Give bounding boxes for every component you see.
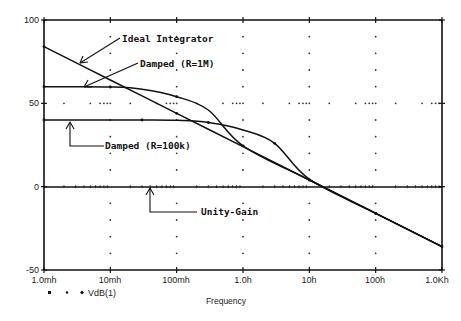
curves	[43, 45, 444, 248]
annotation-damped-100k: Damped (R=100k)	[66, 122, 191, 151]
y-tick-50: 50	[29, 98, 39, 108]
legend-label: VdB(1)	[88, 288, 116, 298]
y-tick-minus50: -50	[26, 265, 39, 275]
anno-damped-1m-text: Damped (R=1M)	[140, 58, 214, 69]
x-tick-10h: 10h	[301, 275, 316, 285]
y-tick-100: 100	[24, 15, 39, 25]
x-axis-labels: 1.0mh 10mh 100mh 1.0h 10h 100h 1.0Kh	[31, 275, 448, 285]
annotation-damped-1m: Damped (R=1M)	[84, 58, 214, 87]
x-tick-10mh: 10mh	[99, 275, 122, 285]
annotation-unity-gain: Unity-Gain	[146, 188, 258, 217]
y-axis-labels: 100 50 0 -50	[24, 15, 39, 275]
anno-ideal-integrator-text: Ideal Integrator	[122, 33, 214, 44]
x-tick-100mh: 100mh	[162, 275, 190, 285]
legend-diamond-marker	[80, 291, 84, 295]
curve-1	[44, 87, 442, 247]
x-tick-1h: 1.0h	[234, 275, 252, 285]
anno-damped-100k-text: Damped (R=100k)	[105, 140, 191, 151]
legend: VdB(1)	[48, 288, 116, 298]
legend-dot-marker	[66, 291, 68, 293]
x-tick-1Kh: 1.0Kh	[425, 275, 449, 285]
x-tick-100h: 100h	[365, 275, 385, 285]
curve-2	[44, 120, 442, 247]
bode-plot: 100 50 0 -50 1.0mh 10mh 100mh 1.0h 10h 1…	[0, 0, 461, 321]
anno-unity-gain-text: Unity-Gain	[201, 206, 258, 217]
y-tick-0: 0	[34, 182, 39, 192]
x-axis-title: Frequency	[206, 296, 247, 306]
x-tick-1mh: 1.0mh	[31, 275, 56, 285]
legend-square-marker	[48, 291, 51, 294]
